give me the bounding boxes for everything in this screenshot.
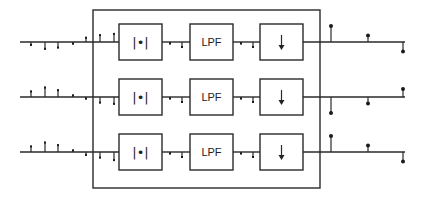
input-sample-stem-tip <box>72 149 74 151</box>
input-sample-stem-tip <box>113 33 115 35</box>
input-sample-stem-tip <box>99 102 101 104</box>
input-sample-stem-tip <box>57 89 59 91</box>
output-sample-stem-dot <box>366 34 370 38</box>
lpf-output-stem-tip <box>240 97 242 99</box>
lpf-label: LPF <box>201 91 221 103</box>
input-sample-stem-tip <box>72 43 74 45</box>
magnitude-output-stem-tip <box>181 101 183 103</box>
input-sample-stem-tip <box>30 44 32 46</box>
magnitude-output-stem-tip <box>169 152 171 154</box>
magnitude-output-stem-tip <box>181 156 183 158</box>
magnitude-output-stem-tip <box>169 42 171 44</box>
lpf-output-stem-tip <box>240 42 242 44</box>
input-sample-stem-tip <box>85 154 87 156</box>
magnitude-label: |•| <box>132 90 148 105</box>
input-sample-stem-tip <box>44 48 46 50</box>
lpf-output-stem-tip <box>252 156 254 158</box>
channel-2: |•|LPF <box>20 79 405 115</box>
input-sample-stem-tip <box>72 94 74 96</box>
lpf-label: LPF <box>201 36 221 48</box>
signal-processing-diagram: |•|LPF|•|LPF|•|LPF <box>0 0 430 199</box>
lpf-output-stem-tip <box>252 101 254 103</box>
channel-1: |•|LPF <box>20 24 405 60</box>
output-sample-stem-dot <box>401 87 405 91</box>
input-sample-stem-tip <box>30 146 32 148</box>
input-sample-stem-tip <box>99 157 101 159</box>
output-sample-stem-dot <box>401 50 405 54</box>
input-sample-stem-tip <box>113 103 115 105</box>
magnitude-label: |•| <box>132 145 148 160</box>
input-sample-stem-tip <box>44 142 46 144</box>
input-sample-stem-tip <box>85 98 87 100</box>
channels: |•|LPF|•|LPF|•|LPF <box>20 24 405 170</box>
magnitude-output-stem-tip <box>169 97 171 99</box>
output-sample-stem-dot <box>329 111 333 115</box>
input-sample-stem-tip <box>99 34 101 36</box>
magnitude-output-stem-tip <box>181 46 183 48</box>
output-sample-stem-dot <box>329 134 333 138</box>
output-sample-stem-dot <box>329 24 333 28</box>
input-sample-stem-tip <box>44 87 46 89</box>
input-sample-stem-tip <box>30 91 32 93</box>
channel-3: |•|LPF <box>20 134 405 170</box>
input-sample-stem-tip <box>57 144 59 146</box>
output-sample-stem-dot <box>366 101 370 105</box>
output-sample-stem-dot <box>401 160 405 164</box>
lpf-output-stem-tip <box>240 152 242 154</box>
input-sample-stem-tip <box>85 37 87 39</box>
input-sample-stem-tip <box>57 47 59 49</box>
input-sample-stem-tip <box>113 159 115 161</box>
magnitude-label: |•| <box>132 35 148 50</box>
lpf-output-stem-tip <box>252 46 254 48</box>
lpf-label: LPF <box>201 146 221 158</box>
output-sample-stem-dot <box>366 144 370 148</box>
